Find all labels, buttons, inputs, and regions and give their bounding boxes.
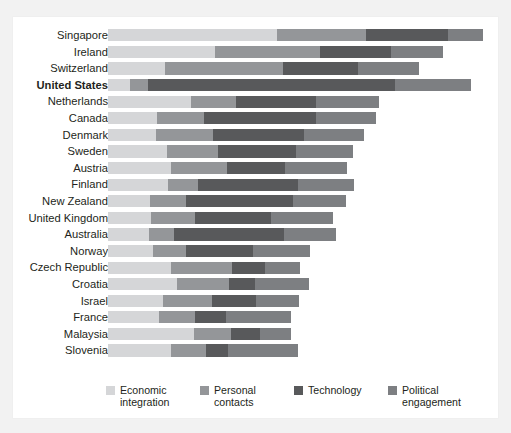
legend-label: Politicalengagement xyxy=(402,384,480,409)
bar-segment-personal-contacts xyxy=(163,295,212,307)
chart-row-label: Malaysia xyxy=(0,326,108,343)
stacked-bar xyxy=(108,262,488,274)
bar-segment-political-engagement xyxy=(226,311,291,323)
chart-row-label: New Zealand xyxy=(0,193,108,210)
bar-segment-political-engagement xyxy=(304,129,364,141)
chart-row-label: Austria xyxy=(0,160,108,177)
bar-segment-personal-contacts xyxy=(171,344,206,356)
bar-segment-technology xyxy=(232,262,265,274)
chart-row-label: Netherlands xyxy=(0,93,108,110)
bar-segment-personal-contacts xyxy=(194,328,231,340)
bar-segment-economic-integration xyxy=(108,295,163,307)
chart-row-label: Australia xyxy=(0,226,108,243)
bar-segment-economic-integration xyxy=(108,96,191,108)
bar-segment-personal-contacts xyxy=(159,311,195,323)
chart-row: Switzerland xyxy=(13,60,498,77)
bar-segment-technology xyxy=(204,112,316,124)
bar-segment-economic-integration xyxy=(108,79,130,91)
chart-row: Croatia xyxy=(13,276,498,293)
stacked-bar xyxy=(108,195,488,207)
bar-segment-political-engagement xyxy=(395,79,471,91)
bar-segment-personal-contacts xyxy=(168,179,198,191)
chart-row-label: Czech Republic xyxy=(0,259,108,276)
chart-row-label: Croatia xyxy=(0,276,108,293)
chart-row: New Zealand xyxy=(13,193,498,210)
bar-segment-economic-integration xyxy=(108,112,157,124)
chart-row: Czech Republic xyxy=(13,259,498,276)
bar-segment-personal-contacts xyxy=(167,145,218,157)
bar-segment-political-engagement xyxy=(271,212,333,224)
bar-segment-personal-contacts xyxy=(151,212,195,224)
stacked-bar xyxy=(108,344,488,356)
bar-segment-technology xyxy=(227,162,285,174)
bar-segment-political-engagement xyxy=(228,344,298,356)
chart-row-label: Norway xyxy=(0,243,108,260)
bar-segment-economic-integration xyxy=(108,311,159,323)
stacked-bar-chart: SingaporeIrelandSwitzerlandUnited States… xyxy=(13,17,498,418)
chart-row-label: Switzerland xyxy=(0,60,108,77)
bar-segment-political-engagement xyxy=(265,262,300,274)
stacked-bar xyxy=(108,96,488,108)
stacked-bar xyxy=(108,328,488,340)
chart-row-label: United States xyxy=(0,77,108,94)
bar-segment-political-engagement xyxy=(285,162,347,174)
bar-segment-economic-integration xyxy=(108,328,194,340)
bar-segment-technology xyxy=(283,62,358,74)
bar-segment-economic-integration xyxy=(108,179,168,191)
bar-segment-technology xyxy=(195,212,271,224)
stacked-bar xyxy=(108,212,488,224)
bar-segment-economic-integration xyxy=(108,29,277,41)
chart-row-label: Israel xyxy=(0,293,108,310)
chart-row-label: United Kingdom xyxy=(0,210,108,227)
chart-legend: EconomicintegrationPersonalcontactsTechn… xyxy=(106,384,498,409)
legend-label: Economicintegration xyxy=(120,384,198,409)
bar-segment-technology xyxy=(148,79,395,91)
stacked-bar xyxy=(108,29,488,41)
bar-segment-economic-integration xyxy=(108,245,153,257)
chart-row: Israel xyxy=(13,293,498,310)
bar-segment-political-engagement xyxy=(316,112,376,124)
stacked-bar xyxy=(108,129,488,141)
stacked-bar xyxy=(108,311,488,323)
chart-row: France xyxy=(13,309,498,326)
chart-row: Slovenia xyxy=(13,342,498,359)
chart-rows: SingaporeIrelandSwitzerlandUnited States… xyxy=(13,27,498,359)
chart-row-label: Slovenia xyxy=(0,342,108,359)
stacked-bar xyxy=(108,278,488,290)
stacked-bar xyxy=(108,245,488,257)
chart-row: United Kingdom xyxy=(13,210,498,227)
bar-segment-technology xyxy=(186,195,293,207)
bar-segment-personal-contacts xyxy=(191,96,236,108)
bar-segment-technology xyxy=(231,328,260,340)
legend-label-line2: contacts xyxy=(214,396,292,408)
bar-segment-personal-contacts xyxy=(215,46,320,58)
stacked-bar xyxy=(108,79,488,91)
bar-segment-political-engagement xyxy=(296,145,353,157)
chart-row: Netherlands xyxy=(13,93,498,110)
bar-segment-political-engagement xyxy=(316,96,379,108)
legend-item: Politicalengagement xyxy=(388,384,482,409)
legend-swatch-political-engagement xyxy=(388,386,397,395)
chart-row: Finland xyxy=(13,176,498,193)
legend-label-line1: Personal xyxy=(214,384,292,396)
chart-row-label: Sweden xyxy=(0,143,108,160)
chart-row: Sweden xyxy=(13,143,498,160)
legend-label-line1: Technology xyxy=(308,384,386,396)
stacked-bar xyxy=(108,62,488,74)
bar-segment-personal-contacts xyxy=(157,112,204,124)
chart-panel: SingaporeIrelandSwitzerlandUnited States… xyxy=(13,17,498,418)
legend-label-line2: engagement xyxy=(402,396,480,408)
stacked-bar xyxy=(108,228,488,240)
stacked-bar xyxy=(108,145,488,157)
bar-segment-technology xyxy=(218,145,296,157)
bar-segment-economic-integration xyxy=(108,129,156,141)
chart-row: Denmark xyxy=(13,127,498,144)
bar-segment-political-engagement xyxy=(256,295,299,307)
bar-segment-technology xyxy=(320,46,391,58)
bar-segment-political-engagement xyxy=(293,195,346,207)
bar-segment-technology xyxy=(206,344,228,356)
bar-segment-economic-integration xyxy=(108,162,171,174)
chart-row: Norway xyxy=(13,243,498,260)
chart-row: United States xyxy=(13,77,498,94)
bar-segment-political-engagement xyxy=(255,278,309,290)
